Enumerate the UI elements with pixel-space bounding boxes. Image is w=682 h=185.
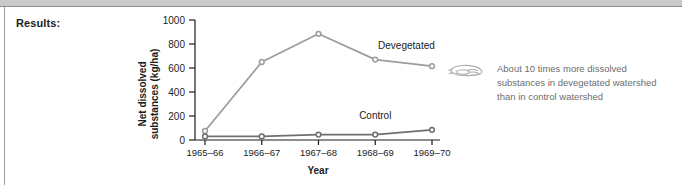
page-root: Results: Net dissolved substances (kg/ha… bbox=[0, 0, 682, 185]
data-point-marker bbox=[373, 132, 378, 137]
annotation-callout: About 10 times more dissolved substances… bbox=[447, 60, 675, 103]
x-tick-label: 1966–67 bbox=[243, 147, 280, 158]
data-point-marker bbox=[259, 60, 264, 65]
y-tick-label: 0 bbox=[179, 135, 185, 146]
x-axis-title: Year bbox=[307, 165, 328, 176]
y-tick-label: 400 bbox=[168, 87, 185, 98]
data-point-marker bbox=[259, 134, 264, 139]
y-tick-label: 600 bbox=[168, 63, 185, 74]
left-border-rule bbox=[4, 7, 5, 185]
line-chart: Net dissolved substances (kg/ha) 0200400… bbox=[133, 12, 453, 180]
x-tick-label: 1968–69 bbox=[357, 147, 394, 158]
y-axis-title-line1: Net dissolved bbox=[137, 61, 148, 126]
pointing-hand-icon bbox=[447, 62, 487, 84]
x-tick-label: 1967–68 bbox=[300, 147, 337, 158]
y-axis-title: Net dissolved substances (kg/ha) bbox=[137, 49, 160, 140]
data-point-marker bbox=[203, 129, 208, 134]
y-tick-group: 02004006008001000 bbox=[163, 15, 195, 146]
x-tick-label: 1969–70 bbox=[414, 147, 451, 158]
series-label-group: DevegetatedControl bbox=[359, 40, 435, 121]
series-label-control: Control bbox=[359, 110, 391, 121]
x-tick-label: 1965–66 bbox=[187, 147, 224, 158]
y-axis-title-line2: substances (kg/ha) bbox=[149, 49, 160, 140]
chart-svg: Net dissolved substances (kg/ha) 0200400… bbox=[133, 12, 453, 180]
y-tick-label: 800 bbox=[168, 39, 185, 50]
data-point-marker bbox=[430, 127, 435, 132]
series-label-devegetated: Devegetated bbox=[378, 40, 435, 51]
y-tick-label: 200 bbox=[168, 111, 185, 122]
data-point-marker bbox=[430, 64, 435, 69]
results-label: Results: bbox=[16, 17, 60, 29]
data-point-marker bbox=[373, 57, 378, 62]
y-tick-label: 1000 bbox=[163, 15, 186, 26]
annotation-text: About 10 times more dissolved substances… bbox=[497, 60, 657, 103]
data-point-marker bbox=[316, 31, 321, 36]
data-point-marker bbox=[203, 134, 208, 139]
top-divider-line bbox=[0, 6, 682, 7]
x-tick-group: 1965–661966–671967–681968–691969–70 bbox=[187, 140, 451, 158]
data-point-marker bbox=[316, 132, 321, 137]
